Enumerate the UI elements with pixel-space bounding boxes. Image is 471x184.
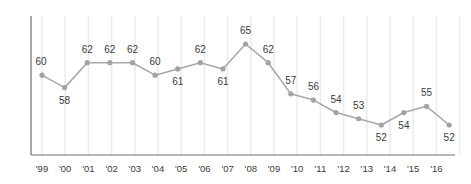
data-point-value-label: 61 bbox=[172, 76, 183, 87]
x-axis-tick-label: '08 bbox=[245, 163, 257, 174]
data-point-value-label: 65 bbox=[240, 25, 251, 36]
data-point-value-label: 54 bbox=[398, 120, 409, 131]
data-point-value-label: 53 bbox=[353, 100, 364, 111]
x-axis-tick-label: '06 bbox=[198, 163, 210, 174]
line-chart: 60586262626061626165625756545352545552'9… bbox=[0, 0, 471, 184]
x-axis-tick-label: '00 bbox=[59, 163, 71, 174]
data-point-value-label: 54 bbox=[330, 94, 341, 105]
data-point-value-label: 57 bbox=[285, 75, 296, 86]
data-point-marker bbox=[107, 60, 112, 65]
x-axis-tick-label: '10 bbox=[291, 163, 303, 174]
data-point-marker bbox=[130, 60, 135, 65]
x-axis-tick-label: '04 bbox=[152, 163, 164, 174]
x-axis-tick-label: '01 bbox=[82, 163, 94, 174]
x-axis-tick-label: '15 bbox=[407, 163, 419, 174]
data-point-value-label: 62 bbox=[263, 44, 274, 55]
data-point-value-label: 61 bbox=[217, 76, 228, 87]
data-point-value-label: 55 bbox=[421, 87, 432, 98]
x-axis-tick-label: '02 bbox=[105, 163, 117, 174]
data-point-marker bbox=[153, 73, 158, 78]
data-point-value-label: 52 bbox=[444, 132, 455, 143]
data-point-value-label: 62 bbox=[127, 44, 138, 55]
x-axis-tick-label: '99 bbox=[36, 163, 48, 174]
data-point-marker bbox=[198, 60, 203, 65]
series-line bbox=[42, 44, 449, 125]
data-point-value-label: 58 bbox=[59, 95, 70, 106]
data-point-marker bbox=[266, 60, 271, 65]
data-point-marker bbox=[288, 91, 293, 96]
data-point-marker bbox=[356, 116, 361, 121]
data-point-value-label: 62 bbox=[104, 44, 115, 55]
data-point-marker bbox=[85, 60, 90, 65]
data-point-marker bbox=[447, 122, 452, 127]
data-point-marker bbox=[333, 110, 338, 115]
data-point-marker bbox=[62, 85, 67, 90]
x-axis-tick-label: '07 bbox=[221, 163, 233, 174]
x-axis-tick-label: '16 bbox=[430, 163, 442, 174]
data-point-marker bbox=[401, 110, 406, 115]
x-axis-tick-label: '14 bbox=[384, 163, 396, 174]
data-point-value-label: 62 bbox=[82, 44, 93, 55]
x-axis-tick-label: '03 bbox=[129, 163, 141, 174]
x-axis-tick-label: '13 bbox=[361, 163, 373, 174]
data-point-marker bbox=[39, 73, 44, 78]
x-axis-tick-label: '11 bbox=[315, 163, 327, 174]
data-point-marker bbox=[243, 41, 248, 46]
data-point-marker bbox=[379, 122, 384, 127]
data-point-value-label: 60 bbox=[35, 56, 46, 67]
x-axis-tick-label: '12 bbox=[337, 163, 349, 174]
data-point-marker bbox=[311, 97, 316, 102]
data-point-marker bbox=[424, 104, 429, 109]
data-point-value-label: 60 bbox=[150, 56, 161, 67]
x-axis-tick-label: '09 bbox=[268, 163, 280, 174]
data-point-value-label: 52 bbox=[376, 132, 387, 143]
data-point-value-label: 62 bbox=[195, 44, 206, 55]
data-point-value-label: 56 bbox=[308, 81, 319, 92]
data-point-marker bbox=[175, 66, 180, 71]
data-point-marker bbox=[220, 66, 225, 71]
chart-plot-area bbox=[0, 0, 471, 184]
x-axis-tick-label: '05 bbox=[175, 163, 187, 174]
